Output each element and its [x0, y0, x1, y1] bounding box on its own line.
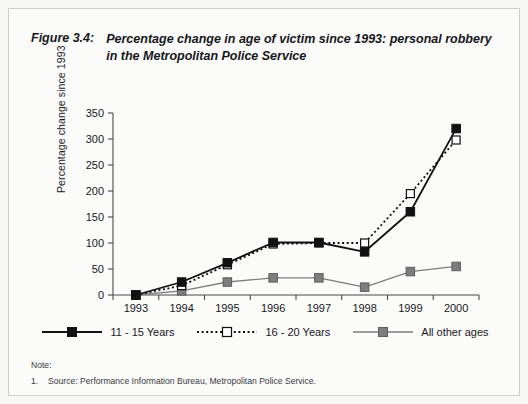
x-axis-tick-label: 1993 [124, 302, 148, 312]
legend-item-3[interactable]: All other ages [352, 325, 488, 339]
y-axis-tick-label: 0 [98, 289, 104, 301]
footnote-item: 1. Source: Performance Information Burea… [31, 375, 501, 388]
x-axis-tick-label: 1996 [261, 302, 285, 312]
chart-container: Percentage change since 1993 05010015020… [9, 97, 521, 312]
figure-number-label: Figure 3.4: [31, 31, 94, 45]
legend-label-2: 16 - 20 Years [265, 326, 330, 338]
data-point-marker [452, 124, 461, 133]
x-axis-tick-label: 2000 [444, 302, 468, 312]
y-axis-tick-label: 200 [86, 185, 104, 197]
legend-swatch-1 [41, 325, 103, 339]
legend-marker [379, 328, 388, 337]
figure-title-block: Figure 3.4: Percentage change in age of … [31, 31, 509, 65]
data-point-marker [361, 239, 369, 247]
page-title: Percentage change in age of victim since… [106, 31, 496, 65]
legend-item-2[interactable]: 16 - 20 Years [196, 325, 330, 339]
y-axis-tick-label: 250 [86, 159, 104, 171]
footnote-heading: Note: [31, 359, 501, 372]
legend-item-1[interactable]: 11 - 15 Years [41, 325, 174, 339]
legend-marker [223, 328, 232, 337]
x-axis-tick-label: 1994 [169, 302, 193, 312]
data-point-marker [269, 238, 278, 247]
legend-label-3: All other ages [421, 326, 488, 338]
line-chart: 0501001502002503003501993199419951996199… [9, 97, 521, 312]
data-point-marker [452, 262, 461, 271]
footnote-text: Source: Performance Information Bureau, … [48, 375, 316, 388]
legend-label-1: 11 - 15 Years [110, 326, 174, 338]
y-axis-tick-label: 100 [86, 237, 104, 249]
data-point-marker [269, 274, 278, 283]
data-point-marker [360, 283, 369, 292]
data-point-marker [406, 190, 414, 198]
legend-swatch-2 [196, 325, 258, 339]
data-point-marker [406, 267, 415, 276]
data-point-marker [223, 259, 232, 268]
x-axis-tick-label: 1997 [307, 302, 331, 312]
footnote-block: Note: 1. Source: Performance Information… [31, 359, 501, 388]
data-point-marker [177, 278, 186, 287]
data-point-marker [315, 238, 324, 247]
data-point-marker [315, 274, 324, 283]
figure-sheet: Figure 3.4: Percentage change in age of … [8, 8, 520, 396]
data-point-marker [406, 208, 415, 217]
x-axis-tick-label: 1999 [398, 302, 422, 312]
y-axis-tick-label: 150 [86, 211, 104, 223]
legend-marker [68, 328, 77, 337]
legend-swatch-3 [352, 325, 414, 339]
y-axis-tick-label: 300 [86, 133, 104, 145]
x-axis-tick-label: 1995 [215, 302, 239, 312]
data-point-marker [223, 278, 232, 287]
page: Figure 3.4: Percentage change in age of … [0, 0, 528, 404]
data-point-marker [452, 136, 460, 144]
y-axis-tick-label: 50 [92, 263, 104, 275]
data-point-marker [360, 248, 369, 257]
x-axis-tick-label: 1998 [352, 302, 376, 312]
y-axis-tick-label: 350 [86, 107, 104, 119]
chart-legend: 11 - 15 Years16 - 20 YearsAll other ages [9, 325, 521, 339]
footnote-number: 1. [31, 375, 48, 388]
data-point-marker [132, 291, 141, 300]
